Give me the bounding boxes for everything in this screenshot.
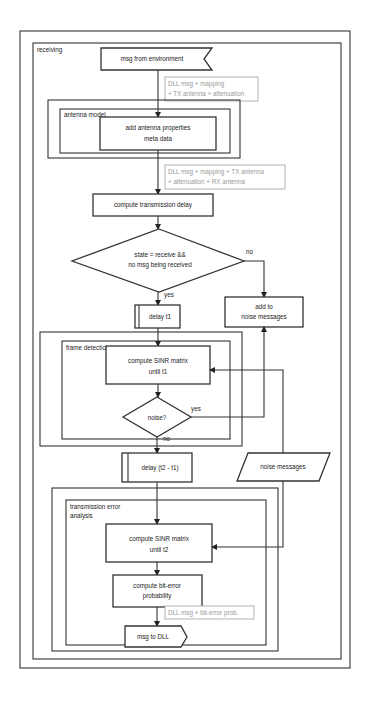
frame-detection-label: frame detection [66,344,110,351]
add-antenna-line2: meta data [144,135,173,142]
msg-to-dll-label: msg to DLL [137,633,170,641]
receiving-label: receiving [37,46,63,54]
tea-frame [66,500,266,645]
edge-label-yes: yes [164,291,174,299]
edge-label-noise-yes: yes [191,405,201,413]
annotation-2-line1: DLL msg + mapping + TX antenna [168,168,264,176]
biterror-line1: compute bit-error [133,582,181,590]
add-noise-line2: noise messages [241,313,287,321]
noise-decision-label: noise? [148,414,167,421]
biterror-line2: probability [143,592,173,600]
edge-label-noise-no: no [163,435,171,442]
sinr-t1-line2: until t1 [149,368,168,375]
tea-label-line1: transmission error [70,503,120,510]
annotation-1-line1: DLL msg + mapping [168,80,225,88]
edge-label-no: no [246,248,254,255]
annotation-1-line2: + TX antenna + attenuation [168,90,245,97]
compute-sinr-t1-node [106,346,210,384]
compute-bit-error-node [113,575,202,607]
annotation-2-line2: + attenuation + RX antenna [168,178,246,185]
decision-line2: no msg being received [128,261,192,269]
annotation-3-label: DLL msg + bit-error prob. [168,609,239,617]
sinr-t1-line1: compute SINR matrix [128,357,189,365]
delay-t2-label: delay (t2 - t1) [141,464,178,472]
edge-decision-no [244,261,264,297]
edge-noise-to-sinr-t2 [212,481,283,547]
tea-label-line2: analysis [70,512,93,520]
sinr-t2-line2: until t2 [150,546,169,553]
flowchart-diagram: receiving msg from environment DLL msg +… [0,0,373,703]
decision-line1: state = receive && [134,251,186,258]
add-noise-line1: add to [255,303,273,310]
edge-noise-to-sinr-t1 [210,370,283,453]
msg-from-environment-label: msg from environment [121,55,184,63]
add-antenna-line1: add antenna properties [126,124,191,132]
noise-messages-label: noise messages [260,463,306,471]
add-antenna-properties-node [100,117,216,150]
compute-sinr-t2-node [106,524,212,562]
add-to-noise-node [225,297,303,327]
compute-transmission-delay-label: compute transmission delay [114,201,193,209]
delay-t1-label: delay t1 [149,313,172,321]
sinr-t2-line1: compute SINR matrix [129,535,190,543]
